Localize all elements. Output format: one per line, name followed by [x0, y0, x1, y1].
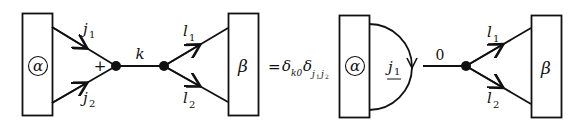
label-l2-main: l: [183, 89, 188, 107]
label-l1-main: l: [183, 22, 188, 40]
alpha-label-left: α: [33, 57, 43, 75]
alpha-box-right: α: [340, 16, 370, 118]
label-loop-j1-sub: 1: [394, 66, 400, 77]
label-k: k: [135, 45, 144, 63]
beta-box-left: β: [229, 14, 259, 116]
arrow-j2-icon: [52, 83, 86, 103]
arrow-j1-icon: [52, 27, 86, 48]
equation: = δ k0 δ j 1 j 2: [268, 57, 329, 80]
delta-2-symbol: δ: [303, 57, 312, 75]
label-l2-sub: 2: [189, 99, 195, 110]
arrow-l2-right-icon: [466, 66, 502, 87]
label-l1-right-sub: 1: [493, 33, 499, 44]
equals-sign: =: [268, 58, 281, 76]
beta-label-left: β: [237, 56, 248, 76]
beta-label-right: β: [540, 58, 551, 78]
label-zero: 0: [436, 47, 445, 63]
vertex-sign-plus: +: [94, 57, 107, 75]
arrow-l2-icon: [164, 66, 199, 86]
label-j2-main: j: [80, 89, 88, 107]
label-l1-right-main: l: [487, 23, 492, 41]
lhs-diagram: α j 1 j 2 + k l 1 l 2 β: [23, 14, 259, 116]
label-l2-right-main: l: [487, 89, 492, 107]
delta-1-subscript: k0: [291, 68, 302, 78]
label-j1-sub: 1: [89, 29, 95, 40]
rhs-diagram: α j 1 0 l 1 l 2 β: [340, 16, 562, 118]
label-loop-j1-main: j: [385, 58, 393, 76]
label-j2-sub: 2: [89, 98, 95, 109]
label-j1-main: j: [80, 20, 88, 38]
alpha-label-right: α: [350, 57, 360, 75]
alpha-box-left: α: [23, 14, 53, 116]
arrow-l1-right-icon: [466, 45, 502, 66]
delta-1-symbol: δ: [282, 57, 291, 75]
beta-box-right: β: [532, 16, 562, 118]
arrow-l1-icon: [164, 45, 199, 66]
delta-2-sub-index-a: 1: [316, 73, 320, 80]
label-l1-sub: 1: [189, 32, 195, 43]
delta-2-sub-index-b: 2: [325, 73, 329, 80]
diagram-canvas: α j 1 j 2 + k l 1 l 2 β: [0, 0, 580, 125]
label-l2-right-sub: 2: [493, 99, 499, 110]
